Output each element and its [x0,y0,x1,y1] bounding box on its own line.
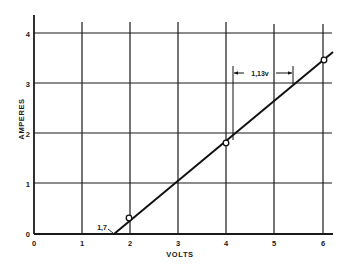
grid-horizontal [34,33,332,183]
data-point-2v [126,215,132,221]
y-tick-3: 3 [26,80,30,89]
x-tick-2: 2 [128,239,132,248]
y-tick-2: 2 [26,130,30,139]
x-tick-3: 3 [176,239,180,248]
x-axis-title: VOLTS [166,250,193,259]
y-tick-1: 1 [26,180,30,189]
grid-vertical [82,22,323,234]
x-tick-6: 6 [321,239,325,248]
data-point-6v [321,57,327,63]
intercept-leader [108,229,113,233]
data-point-4v [223,140,229,146]
x-tick-1: 1 [80,239,84,248]
iv-chart: 0 1 2 3 4 0 1 2 3 4 5 6 VOLTS AMPERES 1,… [0,0,349,269]
y-tick-4: 4 [26,30,31,39]
x-tick-5: 5 [272,239,276,248]
x-tick-4: 4 [224,239,229,248]
y-axis-title: AMPERES [17,98,26,139]
intercept-label: 1,7 [97,224,107,232]
y-tick-0: 0 [26,230,30,239]
y-tick-labels: 0 1 2 3 4 [26,30,31,239]
x-tick-0: 0 [32,239,36,248]
axes [34,15,333,234]
x-tick-labels: 0 1 2 3 4 5 6 [32,239,325,248]
dimension-label: 1,13v [251,70,269,78]
